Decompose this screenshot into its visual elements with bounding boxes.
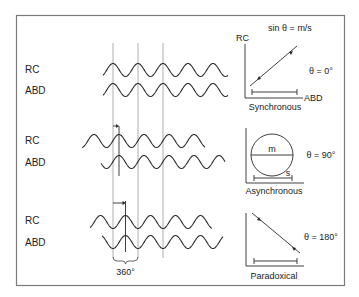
reference-gridlines	[113, 43, 163, 258]
period-brace	[113, 257, 138, 264]
async-axes	[246, 128, 304, 183]
group-2-rc-wave	[82, 135, 205, 148]
group-2-rc-label: RC	[25, 135, 39, 146]
group-3-rc-wave	[90, 216, 212, 229]
group-3-abd-wave	[102, 236, 223, 249]
group-2-phase-marker	[113, 124, 119, 176]
period-label: 360°	[116, 267, 135, 277]
waveforms	[82, 64, 228, 249]
para-theta-label: θ = 180°	[304, 232, 338, 242]
group-1-abd-wave	[103, 84, 228, 97]
group-2-abd-label: ABD	[25, 157, 46, 168]
group-3-abd-label: ABD	[25, 237, 46, 248]
figure-frame	[17, 16, 345, 286]
arrow-up-right-icon	[289, 51, 293, 55]
async-theta-label: θ = 90°	[307, 150, 336, 160]
async-title: Asynchronous	[245, 186, 303, 196]
group-3-phase-marker	[113, 201, 126, 252]
sync-axes	[245, 44, 303, 98]
para-title: Paradoxical	[250, 271, 297, 281]
group-1-abd-label: ABD	[25, 85, 46, 96]
para-span-bar	[254, 258, 297, 264]
group-1-rc-wave	[103, 64, 228, 77]
sync-theta-label: θ = 0°	[309, 66, 333, 76]
group-3-rc-label: RC	[25, 215, 39, 226]
sync-title: Synchronous	[249, 102, 302, 112]
async-s-label: s	[286, 168, 291, 178]
formula-label: sin θ = m/s	[268, 23, 312, 33]
thoracoabdominal-asynchrony-diagram: RC ABD RC ABD RC ABD 360° sin θ = m/s RC…	[0, 0, 359, 297]
sync-x-axis-label: ABD	[304, 93, 323, 103]
para-axes	[246, 213, 304, 266]
sync-y-axis-label: RC	[236, 33, 249, 43]
async-m-label: m	[268, 144, 276, 154]
group-1-rc-label: RC	[25, 64, 39, 75]
sync-span-bar	[252, 89, 297, 95]
